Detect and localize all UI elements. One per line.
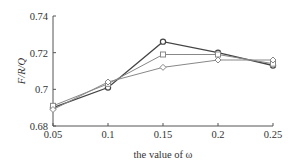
x-tick-label: 0.15 xyxy=(154,129,172,140)
y-ticks: 0.740.720.70.68 xyxy=(30,11,56,132)
y-tick-label: 0.7 xyxy=(35,84,48,95)
x-axis-title: the value of ω xyxy=(133,149,192,160)
x-tick-label: 0.25 xyxy=(264,129,282,140)
circle-marker-icon xyxy=(160,39,165,44)
x-tick-label: 0.05 xyxy=(44,129,62,140)
series-markers xyxy=(50,39,276,112)
series-2-line xyxy=(53,55,273,106)
x-tick-label: 0.1 xyxy=(101,129,114,140)
x-tick-label: 0.2 xyxy=(211,129,224,140)
y-axis-title: F/R/Q xyxy=(16,57,27,85)
square-marker-icon xyxy=(161,52,166,57)
square-marker-icon xyxy=(216,52,221,57)
diamond-marker-icon xyxy=(215,57,221,63)
line-chart: 0.740.720.70.68 0.050.10.150.20.25 F/R/Q… xyxy=(0,0,295,166)
diamond-marker-icon xyxy=(160,64,166,70)
y-tick-label: 0.72 xyxy=(30,48,48,59)
y-tick-label: 0.74 xyxy=(30,11,49,22)
